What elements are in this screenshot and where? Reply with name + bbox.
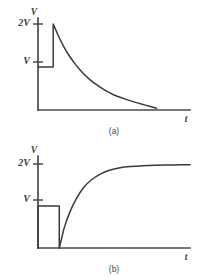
panel-caption-a: (a): [109, 126, 120, 136]
y-tick-label-2v-a: 2V: [17, 17, 31, 28]
y-axis-label-a: V: [31, 7, 38, 17]
figure-root: 2V V V t (a) 2V V V t: [0, 0, 202, 280]
voltage-trace-a: [38, 24, 157, 108]
chart-panel-a: 2V V V t (a): [0, 0, 202, 140]
y-tick-label-v-a: V: [23, 55, 31, 66]
chart-panel-b: 2V V V t (b): [0, 140, 202, 280]
panel-caption-b: (b): [109, 264, 120, 274]
chart-b-svg: 2V V V t (b): [0, 140, 202, 280]
y-tick-label-v-b: V: [23, 193, 31, 204]
pulse-trace-b: [38, 206, 59, 248]
chart-a-svg: 2V V V t (a): [0, 0, 202, 140]
y-tick-label-2v-b: 2V: [17, 157, 31, 168]
y-axis-label-b: V: [31, 145, 38, 155]
x-axis-label-b: t: [185, 252, 188, 262]
voltage-trace-b: [59, 165, 190, 248]
x-axis-label-a: t: [185, 114, 188, 124]
